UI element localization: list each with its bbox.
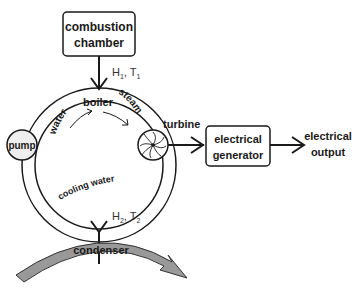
water-label: water xyxy=(46,107,69,137)
turbine-label: turbine xyxy=(163,118,200,130)
output-label-1: electrical xyxy=(304,130,352,142)
chamber-label: chamber xyxy=(74,36,124,50)
flow-arrows xyxy=(70,109,128,128)
heat-in-arrow xyxy=(91,56,107,89)
diagram-canvas: combustion chamber H1, T1 water boiler s… xyxy=(0,0,362,299)
heat-in-label: H1, T1 xyxy=(112,66,141,80)
boiler-label: boiler xyxy=(83,96,114,108)
pump: pump xyxy=(7,130,37,160)
generator-label-2: generator xyxy=(213,149,264,161)
heat-out-label: H2, T2 xyxy=(112,210,141,224)
boiler-ring xyxy=(22,88,176,242)
combustion-chamber-box: combustion chamber xyxy=(63,12,135,56)
combustion-label: combustion xyxy=(65,20,133,34)
generator-label-1: electrical xyxy=(214,133,262,145)
output-label-2: output xyxy=(311,146,346,158)
condenser-label: condenser xyxy=(73,244,129,256)
electrical-generator-box: electrical generator xyxy=(206,126,270,166)
pump-label: pump xyxy=(8,140,35,151)
cooling-water-label: cooling water xyxy=(56,173,115,201)
turbine-to-generator-arrow xyxy=(168,137,204,153)
generator-to-output-arrow xyxy=(270,137,304,153)
turbine: turbine xyxy=(138,118,200,160)
